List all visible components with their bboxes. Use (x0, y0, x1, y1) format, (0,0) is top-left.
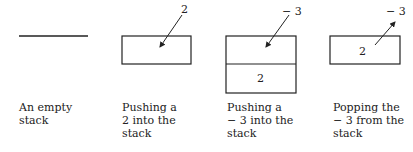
stack-item-value: 2 (359, 45, 366, 58)
pop-arrow (375, 22, 395, 45)
arrow-label: − 3 (282, 5, 302, 18)
caption-pop-neg3: Popping the − 3 from the stack (333, 101, 404, 140)
arrow-label: 2 (181, 3, 188, 16)
caption-push-2: Pushing a 2 into the stack (122, 101, 177, 140)
caption-push-neg3: Pushing a − 3 into the stack (227, 101, 293, 140)
stack-box (122, 36, 191, 64)
arrow-label: − 3 (386, 5, 406, 18)
caption-empty-stack: An empty stack (19, 101, 72, 127)
push-arrow (160, 15, 182, 47)
push-arrow (266, 15, 289, 47)
stack-item-value: 2 (257, 72, 264, 85)
